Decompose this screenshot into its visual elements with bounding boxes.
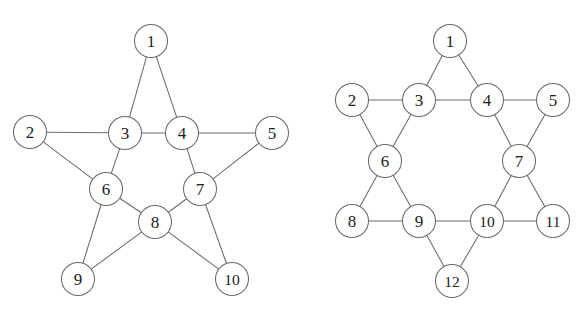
graph-edge (527, 175, 545, 206)
graph-edge (427, 235, 444, 266)
graph-edge (168, 199, 186, 212)
node-label: 10 (224, 271, 240, 288)
five-pointed-star-graph-nodes: 12345678910 (14, 25, 289, 296)
graph-node[interactable]: 8 (336, 205, 369, 238)
node-label: 3 (415, 91, 424, 110)
node-label: 5 (549, 91, 558, 110)
node-label: 6 (102, 180, 111, 199)
graph-edge (206, 205, 227, 264)
node-label: 4 (178, 124, 187, 143)
node-label: 6 (381, 152, 390, 171)
graph-node[interactable]: 10 (471, 205, 504, 238)
graph-edge (111, 149, 119, 174)
six-pointed-star-graph-nodes: 123456789101112 (336, 25, 570, 298)
graph-edge (187, 149, 195, 174)
graph-node[interactable]: 9 (62, 263, 95, 296)
graph-node[interactable]: 10 (216, 263, 249, 296)
node-label: 9 (415, 212, 424, 231)
graph-edge (213, 143, 259, 179)
graph-edge (527, 114, 545, 146)
graph-node[interactable]: 3 (109, 117, 142, 150)
node-label: 5 (268, 124, 277, 143)
graph-edge (156, 57, 176, 118)
graph-edge (43, 142, 93, 179)
graph-edge (495, 115, 512, 147)
graph-node[interactable]: 9 (403, 205, 436, 238)
node-label: 10 (479, 213, 495, 230)
node-label: 2 (26, 123, 35, 142)
graph-node[interactable]: 1 (434, 25, 467, 58)
graph-node[interactable]: 6 (90, 173, 123, 206)
graph-edge (393, 175, 411, 206)
node-label: 3 (121, 124, 130, 143)
node-label: 8 (348, 212, 357, 231)
graph-node[interactable]: 12 (436, 265, 469, 298)
node-label: 7 (515, 152, 524, 171)
graph-node[interactable]: 5 (256, 117, 289, 150)
graph-edge (459, 55, 478, 86)
graph-edge (360, 175, 377, 206)
graph-edge (168, 232, 218, 269)
graph-node[interactable]: 7 (503, 145, 536, 178)
node-label: 1 (446, 32, 455, 51)
graph-edge (393, 114, 411, 146)
graph-edge (360, 115, 377, 147)
node-label: 11 (546, 213, 561, 230)
graph-node[interactable]: 7 (184, 173, 217, 206)
graph-edge (47, 132, 109, 133)
graph-node[interactable]: 11 (537, 205, 570, 238)
graph-edge (120, 198, 142, 213)
graph-node[interactable]: 2 (336, 84, 369, 117)
graph-edge (83, 205, 101, 263)
figure-caption (0, 303, 580, 317)
node-label: 8 (151, 213, 160, 232)
node-label: 2 (348, 91, 357, 110)
node-label: 12 (444, 273, 460, 290)
graph-node[interactable]: 5 (537, 84, 570, 117)
graph-node[interactable]: 4 (166, 117, 199, 150)
graph-node[interactable]: 3 (403, 84, 436, 117)
node-label: 9 (74, 270, 83, 289)
graph-edge (495, 176, 511, 207)
graph-edge (129, 57, 146, 117)
graph-edge (427, 56, 443, 86)
edges-layer (43, 55, 545, 269)
graph-node[interactable]: 4 (471, 84, 504, 117)
graph-edge (460, 235, 478, 267)
graph-edge (91, 232, 141, 269)
graph-node[interactable]: 8 (139, 206, 172, 239)
node-label: 7 (196, 180, 205, 199)
figure-root: 12345678910123456789101112 (0, 0, 580, 317)
node-label: 1 (147, 32, 156, 51)
graph-node[interactable]: 2 (14, 116, 47, 149)
nodes-layer: 12345678910123456789101112 (14, 25, 570, 298)
node-label: 4 (483, 91, 492, 110)
graph-node[interactable]: 6 (369, 145, 402, 178)
graph-node[interactable]: 1 (135, 25, 168, 58)
graph-figure-canvas: 12345678910123456789101112 (0, 0, 580, 317)
